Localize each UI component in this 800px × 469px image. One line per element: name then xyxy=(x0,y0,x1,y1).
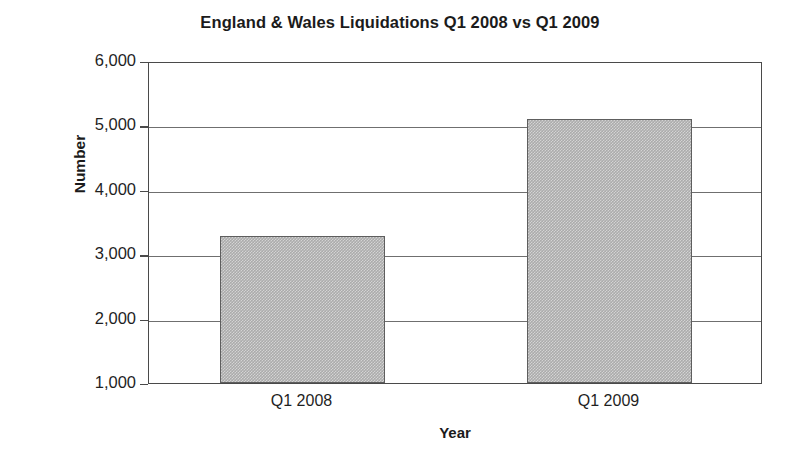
y-axis-tick-label: 3,000 xyxy=(44,244,136,263)
bar xyxy=(527,119,692,383)
y-axis-tick-label: 5,000 xyxy=(44,115,136,134)
y-axis-tick-mark xyxy=(140,191,148,192)
bar xyxy=(220,236,385,383)
y-axis-tick-mark xyxy=(140,320,148,321)
plot-area xyxy=(148,62,762,384)
bar-chart: England & Wales Liquidations Q1 2008 vs … xyxy=(0,0,800,469)
y-axis-tick-mark xyxy=(140,62,148,63)
y-axis-tick-label: 4,000 xyxy=(44,180,136,199)
chart-title: England & Wales Liquidations Q1 2008 vs … xyxy=(0,13,800,32)
y-axis-tick-mark xyxy=(140,255,148,256)
y-axis-tick-label: 1,000 xyxy=(44,373,136,392)
y-axis-tick-label: 6,000 xyxy=(44,51,136,70)
y-axis-tick-mark xyxy=(140,384,148,385)
y-axis-tick-label: 2,000 xyxy=(44,309,136,328)
x-axis-tick-label: Q1 2008 xyxy=(212,392,392,410)
x-axis-title: Year xyxy=(148,424,762,441)
x-axis-tick-label: Q1 2009 xyxy=(519,392,699,410)
y-axis-tick-mark xyxy=(140,126,148,127)
